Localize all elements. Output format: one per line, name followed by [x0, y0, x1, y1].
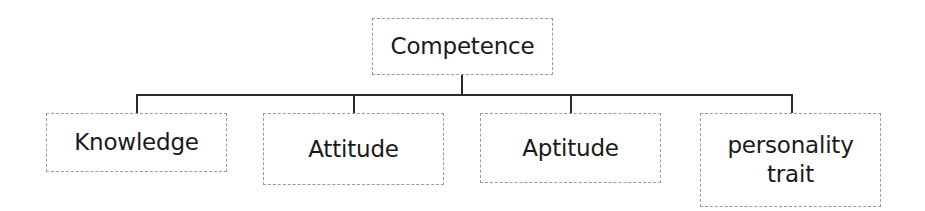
competence-hierarchy-diagram: Competence Knowledge Attitude Aptitude p… — [0, 0, 925, 211]
child-node-personality-trait: personality trait — [700, 113, 881, 207]
child-connector-personality-trait — [791, 94, 793, 114]
root-vertical-connector — [461, 75, 463, 95]
root-node-competence: Competence — [372, 18, 553, 75]
child-connector-knowledge — [136, 94, 138, 114]
child-connector-aptitude — [570, 94, 572, 114]
child-node-label: Attitude — [308, 135, 399, 164]
child-node-label: personality trait — [727, 131, 853, 189]
child-node-label: Knowledge — [74, 128, 199, 157]
child-node-attitude: Attitude — [263, 113, 444, 185]
child-connector-attitude — [353, 94, 355, 114]
child-node-aptitude: Aptitude — [480, 113, 661, 183]
horizontal-bus-connector — [136, 94, 793, 96]
root-node-label: Competence — [391, 32, 535, 61]
child-node-knowledge: Knowledge — [46, 113, 227, 172]
child-node-label: Aptitude — [522, 134, 619, 163]
